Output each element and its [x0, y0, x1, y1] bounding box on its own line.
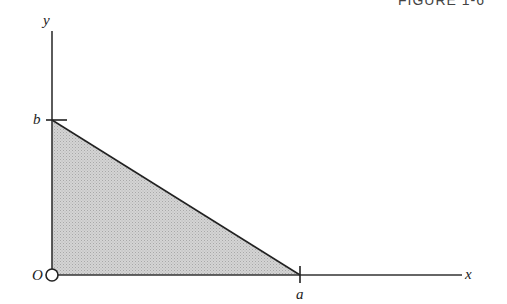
a-label: a [296, 287, 304, 302]
y-axis-label: y [43, 13, 50, 28]
triangle-diagram [0, 0, 507, 304]
x-axis-label: x [465, 267, 472, 282]
origin-circle-icon [46, 269, 58, 281]
b-label: b [33, 112, 41, 127]
origin-label: O [32, 268, 43, 283]
